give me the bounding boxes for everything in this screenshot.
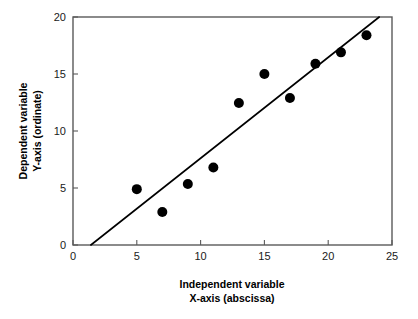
y-tick-label: 10: [54, 125, 66, 137]
x-tick-label: 10: [194, 250, 206, 262]
x-tick-label: 25: [386, 250, 398, 262]
data-point: [336, 47, 346, 57]
chart-canvas: 05101520 0510152025 Independent variable…: [0, 0, 418, 319]
data-point: [310, 59, 320, 69]
x-axis-title-line-1: Independent variable: [179, 278, 284, 290]
y-axis-title-line-1: Dependent variable: [17, 82, 29, 179]
y-tick-label: 20: [54, 11, 66, 23]
y-tick-label: 15: [54, 68, 66, 80]
y-axis-tick-labels: 05101520: [54, 11, 66, 251]
data-point: [234, 98, 244, 108]
data-point: [132, 184, 142, 194]
data-point: [208, 162, 218, 172]
y-tick-label: 0: [60, 239, 66, 251]
x-tick-label: 0: [70, 250, 76, 262]
x-axis-tick-labels: 0510152025: [70, 250, 398, 262]
data-point-group: [132, 30, 372, 217]
trend-line-segment: [91, 17, 379, 245]
x-tick-label: 15: [258, 250, 270, 262]
data-point: [157, 207, 167, 217]
x-axis-ticks: [73, 240, 392, 245]
regression-line: [91, 17, 379, 245]
x-tick-label: 20: [322, 250, 334, 262]
x-axis-title: Independent variable X-axis (abscissa): [179, 278, 284, 304]
data-point: [259, 69, 269, 79]
scatter-plot-figure: 05101520 0510152025 Independent variable…: [0, 0, 418, 319]
y-tick-label: 5: [60, 182, 66, 194]
y-axis-ticks: [73, 17, 78, 245]
data-point: [361, 30, 371, 40]
y-axis-title: Dependent variable Y-axis (ordinate): [17, 82, 43, 179]
y-axis-title-line-2: Y-axis (ordinate): [31, 90, 43, 172]
data-point: [285, 93, 295, 103]
x-axis-title-line-2: X-axis (abscissa): [189, 292, 274, 304]
x-tick-label: 5: [134, 250, 140, 262]
data-point: [183, 179, 193, 189]
